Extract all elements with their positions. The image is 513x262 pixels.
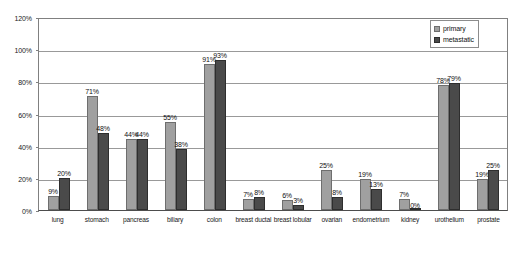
bar-primary[interactable] — [87, 96, 98, 210]
x-tick-label: colon — [195, 216, 234, 223]
bar-slot: 3% — [293, 19, 304, 210]
bar-metastatic[interactable] — [332, 197, 343, 210]
bar-group: 7%0% — [390, 19, 429, 210]
y-tick-label: 120% — [14, 15, 32, 22]
bar-metastatic[interactable] — [293, 205, 304, 210]
bar-slot: 25% — [488, 19, 499, 210]
bar-slot: 91% — [204, 19, 215, 210]
bar-metastatic[interactable] — [59, 178, 70, 210]
bar-value-label: 6% — [282, 192, 292, 199]
y-tick-label: 40% — [18, 143, 32, 150]
y-tick-label: 100% — [14, 47, 32, 54]
bar-value-label: 7% — [243, 191, 253, 198]
legend-item-label: primary — [443, 25, 466, 32]
bar-primary[interactable] — [282, 200, 293, 210]
bar-slot: 8% — [332, 19, 343, 210]
bar-group: 6%3% — [273, 19, 312, 210]
bar-value-label: 9% — [48, 188, 58, 195]
bar-value-label: 20% — [57, 170, 70, 177]
x-tick-label: ovarian — [312, 216, 351, 223]
bar-slot: 6% — [282, 19, 293, 210]
x-tick-label: endometrium — [351, 216, 390, 223]
bar-slot: 44% — [137, 19, 148, 210]
y-tick-label: 0% — [22, 208, 32, 215]
bar-slot: 8% — [254, 19, 265, 210]
bar-value-label: 44% — [135, 131, 148, 138]
bar-value-label: 3% — [293, 197, 303, 204]
bar-slot: 7% — [399, 19, 410, 210]
bar-primary[interactable] — [48, 196, 59, 210]
bar-slot: 20% — [59, 19, 70, 210]
bar-value-label: 8% — [254, 189, 264, 196]
y-tick-label: 60% — [18, 111, 32, 118]
bar-group: 9%20% — [39, 19, 78, 210]
bar-group: 71%48% — [78, 19, 117, 210]
bar-primary[interactable] — [438, 85, 449, 210]
bar-slot: 44% — [126, 19, 137, 210]
bar-group: 7%8% — [234, 19, 273, 210]
bar-slot: 55% — [165, 19, 176, 210]
y-axis: 0%20%40%60%80%100%120% — [0, 18, 36, 211]
x-tick-label: biliary — [156, 216, 195, 223]
y-tick-label: 80% — [18, 79, 32, 86]
bar-group: 44%44% — [117, 19, 156, 210]
legend-item[interactable]: primary — [434, 23, 474, 34]
bar-metastatic[interactable] — [176, 149, 187, 210]
bar-group: 55%38% — [156, 19, 195, 210]
bar-slot: 48% — [98, 19, 109, 210]
bar-value-label: 79% — [447, 75, 460, 82]
bar-metastatic[interactable] — [488, 170, 499, 210]
legend-swatch-icon — [434, 37, 440, 43]
bar-slot: 9% — [48, 19, 59, 210]
x-tick-label: breast lobular — [273, 216, 312, 223]
bar-slot: 13% — [371, 19, 382, 210]
bar-primary[interactable] — [321, 170, 332, 210]
y-tick-mark — [36, 211, 39, 212]
bar-primary[interactable] — [477, 179, 488, 210]
bar-value-label: 7% — [399, 191, 409, 198]
legend-item[interactable]: metastatic — [434, 34, 474, 45]
legend-swatch-icon — [434, 26, 440, 32]
bar-group: 25%8% — [312, 19, 351, 210]
bar-primary[interactable] — [126, 139, 137, 210]
bar-value-label: 38% — [174, 141, 187, 148]
legend-item-label: metastatic — [443, 36, 474, 43]
x-axis: lungstomachpancreasbiliarycolonbreast du… — [38, 216, 508, 223]
x-tick-label: prostate — [469, 216, 508, 223]
x-tick-label: stomach — [77, 216, 116, 223]
bar-slot: 38% — [176, 19, 187, 210]
bar-primary[interactable] — [204, 64, 215, 210]
x-tick-label: lung — [38, 216, 77, 223]
x-tick-label: pancreas — [116, 216, 155, 223]
bar-primary[interactable] — [399, 199, 410, 210]
y-tick-label: 20% — [18, 175, 32, 182]
bar-metastatic[interactable] — [215, 60, 226, 210]
bar-group: 19%13% — [351, 19, 390, 210]
bar-value-label: 8% — [332, 189, 342, 196]
bar-slot: 0% — [410, 19, 421, 210]
bar-slot: 93% — [215, 19, 226, 210]
bar-value-label: 25% — [486, 162, 499, 169]
bar-slot: 25% — [321, 19, 332, 210]
bar-metastatic[interactable] — [254, 197, 265, 210]
bar-value-label: 48% — [96, 125, 109, 132]
bar-slot: 7% — [243, 19, 254, 210]
bar-group: 91%93% — [195, 19, 234, 210]
bar-primary[interactable] — [165, 122, 176, 210]
bar-value-label: 0% — [410, 202, 420, 209]
bar-value-label: 13% — [369, 181, 382, 188]
bar-slot: 71% — [87, 19, 98, 210]
bar-primary[interactable] — [243, 199, 254, 210]
bar-metastatic[interactable] — [137, 139, 148, 210]
bar-value-label: 93% — [213, 52, 226, 59]
bar-chart: 0%20%40%60%80%100%120% 9%20%71%48%44%44%… — [0, 0, 513, 262]
bar-metastatic[interactable] — [371, 189, 382, 210]
bar-metastatic[interactable] — [98, 133, 109, 210]
x-tick-label: kidney — [391, 216, 430, 223]
legend: primarymetastatic — [430, 20, 479, 48]
x-tick-label: breast ductal — [234, 216, 273, 223]
x-tick-label: urothelium — [430, 216, 469, 223]
bar-metastatic[interactable] — [449, 83, 460, 210]
